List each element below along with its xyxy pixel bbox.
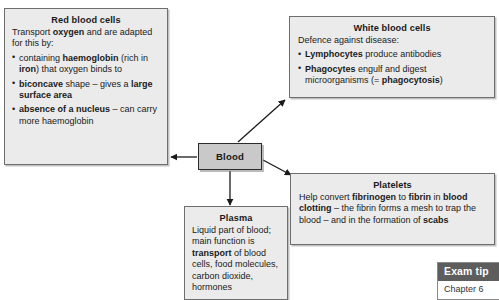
arrow-blood-to-platelets	[263, 160, 291, 175]
red-blood-cells-title: Red blood cells	[12, 14, 160, 26]
rbc-intro-part-0: Transport	[12, 27, 53, 37]
rbc-intro-part-1: oxygen	[53, 27, 85, 37]
blood-components-diagram: Red blood cells Transport oxygen and are…	[0, 0, 499, 300]
red-blood-cells-bullet-list: containing haemoglobin (rich in iron) th…	[12, 53, 160, 128]
exam-tip-body: Chapter 6	[438, 281, 499, 295]
white-blood-cells-bullet-list: Lymphocytes produce antibodies Phagocyte…	[298, 49, 486, 86]
exam-tip-panel: Exam tip Chapter 6	[437, 262, 499, 300]
list-item: Phagocytes engulf and digest microorgani…	[298, 64, 486, 87]
blood-center-box: Blood	[198, 143, 262, 170]
list-item: containing haemoglobin (rich in iron) th…	[12, 53, 160, 76]
white-blood-cells-intro: Defence against disease:	[298, 35, 486, 46]
blood-label: Blood	[216, 151, 244, 162]
list-item: biconcave shape – gives a large surface …	[12, 79, 160, 102]
white-blood-cells-title: White blood cells	[298, 22, 486, 34]
arrow-blood-to-white-blood-cells	[238, 100, 285, 142]
list-item: Lymphocytes produce antibodies	[298, 49, 486, 61]
platelets-body: Help convert fibrinogen to fibrin in blo…	[299, 192, 486, 226]
red-blood-cells-box: Red blood cells Transport oxygen and are…	[4, 8, 168, 165]
exam-tip-header: Exam tip	[438, 263, 499, 281]
red-blood-cells-intro: Transport oxygen and are adapted for thi…	[12, 27, 160, 50]
plasma-box: Plasma Liquid part of blood; main functi…	[184, 206, 288, 300]
plasma-title: Plasma	[192, 212, 280, 224]
plasma-body: Liquid part of blood; main function is t…	[192, 225, 280, 293]
platelets-box: Platelets Help convert fibrinogen to fib…	[290, 173, 495, 245]
platelets-title: Platelets	[299, 179, 486, 191]
white-blood-cells-box: White blood cells Defence against diseas…	[289, 16, 495, 98]
list-item: absence of a nucleus – can carry more ha…	[12, 104, 160, 127]
